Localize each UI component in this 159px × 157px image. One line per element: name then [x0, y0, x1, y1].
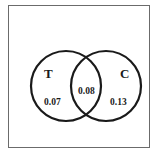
value-t-only: 0.07	[44, 97, 61, 107]
set-label-c: C	[120, 66, 129, 81]
value-c-only: 0.13	[110, 97, 127, 107]
venn-diagram-canvas: T C 0.07 0.08 0.13	[0, 0, 159, 157]
set-label-t: T	[44, 66, 53, 81]
venn-diagram: T C 0.07 0.08 0.13	[0, 0, 159, 157]
value-intersection: 0.08	[78, 86, 95, 96]
